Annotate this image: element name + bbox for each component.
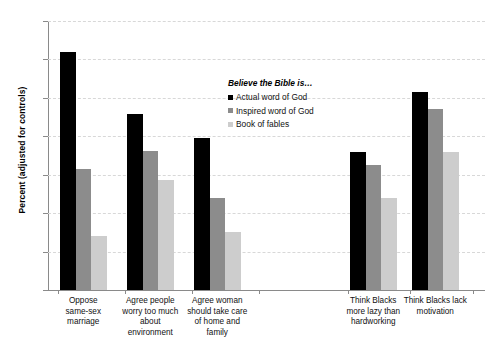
x-tick-mark [125,290,126,294]
x-tick-mark [410,290,411,294]
legend-items: Actual word of GodInspired word of GodBo… [228,92,314,129]
bar [412,92,428,290]
category-label-line: family [178,328,256,339]
legend-label: Book of fables [236,119,289,129]
x-axis-category-label: Agree peopleworry too muchaboutenvironme… [113,296,187,338]
legend-swatch-icon [228,108,233,113]
x-axis-category-label: Think Blacks lackmotivation [395,296,475,317]
bar [210,198,226,290]
x-tick-mark [259,290,260,294]
bar [76,169,92,290]
bar [127,114,143,290]
bar [60,52,76,290]
category-label-line: motivation [395,307,475,318]
bar [158,180,174,290]
bar [428,109,444,290]
legend-swatch-icon [228,95,233,100]
category-label-line: same-sex [52,307,114,318]
x-tick-mark [58,290,59,294]
bar [366,165,382,290]
x-axis-category-label: Opposesame-sexmarriage [52,296,114,328]
plot-area [48,21,485,290]
bar [194,138,210,290]
legend-swatch-icon [228,122,233,127]
category-label-line: of home and [178,317,256,328]
category-label-line: environment [113,328,187,339]
legend-item: Actual word of God [228,92,314,102]
bar [91,236,107,290]
x-tick-mark [192,290,193,294]
bar [225,232,241,290]
bars [48,21,485,290]
bar [143,151,159,290]
category-label-line: Agree woman [178,296,256,307]
legend: Believe the Bible is… Actual word of God… [228,78,314,133]
legend-title: Believe the Bible is… [228,78,314,88]
bar [443,152,459,290]
x-axis-baseline [48,290,485,291]
category-label-line: marriage [52,317,114,328]
category-label-line: should take care [178,307,256,318]
x-tick-mark [473,290,474,294]
category-label-line: Think Blacks lack [395,296,475,307]
bar-chart: Percent (adjusted for controls) 01020304… [0,0,490,351]
category-label-line: about [113,317,187,328]
category-label-line: Agree people [113,296,187,307]
legend-item: Book of fables [228,119,314,129]
x-axis-category-label: Agree womanshould take careof home andfa… [178,296,256,338]
legend-item: Inspired word of God [228,106,314,116]
category-label-line: worry too much [113,307,187,318]
x-tick-mark [348,290,349,294]
bar [350,152,366,290]
category-label-line: hardworking [336,317,410,328]
bar [381,198,397,290]
legend-label: Inspired word of God [236,106,314,116]
category-label-line: Oppose [52,296,114,307]
legend-label: Actual word of God [236,92,307,102]
y-axis-title: Percent (adjusted for controls) [17,45,27,255]
